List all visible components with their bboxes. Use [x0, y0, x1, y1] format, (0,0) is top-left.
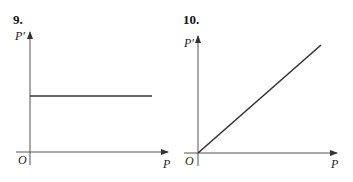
figure-9: 9. P′ O P [0, 0, 180, 182]
chart-10-plot [180, 0, 353, 182]
origin-label: O [18, 153, 27, 168]
chart-9-plot [0, 0, 180, 182]
figure-number: 10. [183, 12, 199, 28]
x-axis-label: P [331, 157, 338, 172]
data-line [198, 45, 321, 153]
y-axis-label: P′ [15, 29, 25, 44]
origin-label: O [185, 154, 194, 169]
x-axis-label: P [163, 157, 170, 172]
y-axis-label: P′ [184, 36, 194, 51]
figure-10: 10. P′ O P [180, 0, 353, 182]
figure-number: 9. [13, 12, 23, 28]
